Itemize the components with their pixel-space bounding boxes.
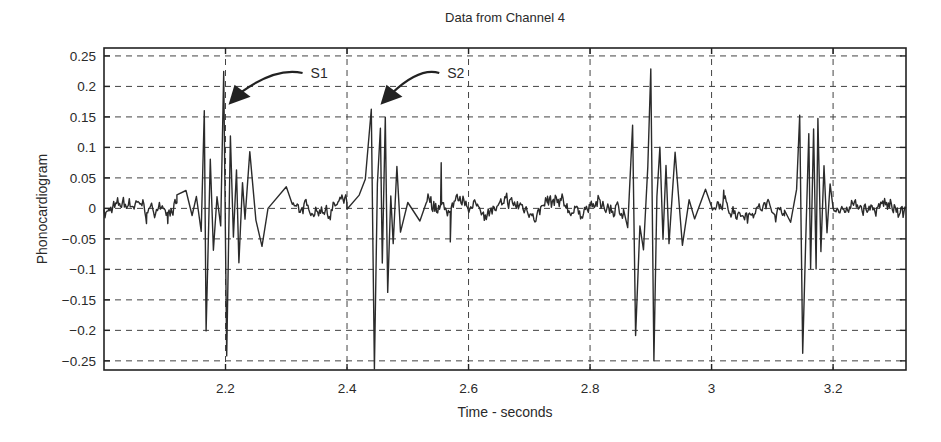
x-tick-label: 3.2 (824, 381, 843, 396)
x-tick-label: 2.4 (338, 381, 357, 396)
y-tick-label: 0.05 (70, 171, 96, 186)
x-tick-label: 2.6 (459, 381, 478, 396)
y-tick-label: 0.1 (77, 140, 96, 155)
annotation-s1: S1 (311, 65, 328, 81)
axis-ticks: 2.22.42.62.833.20.250.20.150.10.050−0.05… (62, 48, 906, 396)
y-tick-label: −0.25 (62, 354, 96, 369)
arrow-icon (392, 72, 439, 93)
y-tick-label: −0.1 (69, 262, 96, 277)
annotation-s2: S2 (447, 65, 464, 81)
signal-trace (104, 69, 906, 369)
y-tick-label: −0.2 (69, 323, 96, 338)
y-tick-label: 0 (88, 201, 96, 216)
y-tick-label: 0.2 (77, 79, 96, 94)
x-tick-label: 2.8 (581, 381, 600, 396)
arrow-icon (241, 72, 303, 93)
y-tick-label: 0.25 (70, 49, 96, 64)
chart-title: Data from Channel 4 (445, 10, 565, 25)
y-tick-label: −0.05 (62, 232, 96, 247)
x-axis-label: Time - seconds (457, 404, 552, 420)
phonocardiogram-chart: Data from Channel 4 2.22.42.62.833.20.25… (0, 0, 941, 442)
y-tick-label: 0.15 (70, 110, 96, 125)
x-tick-label: 3 (708, 381, 716, 396)
x-tick-label: 2.2 (216, 381, 235, 396)
y-axis-label: Phonocardiogram (34, 154, 50, 265)
y-tick-label: −0.15 (62, 293, 96, 308)
